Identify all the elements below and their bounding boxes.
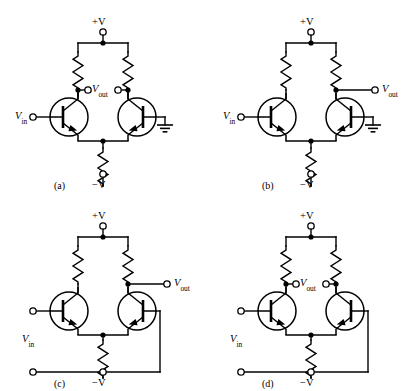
terminal-vout-c[interactable] (164, 281, 170, 287)
node-top-rail-c (100, 234, 105, 239)
transistor-right-a (118, 93, 156, 141)
node-top-rail-d (308, 234, 313, 239)
resistor-collector-right-c (123, 246, 133, 284)
node-top-rail-a (100, 40, 105, 45)
terminal-vout-b[interactable] (372, 87, 378, 93)
circuit-schematic-canvas (0, 0, 417, 391)
transistor-left-d (258, 287, 296, 335)
label-vout-c: Vout (174, 278, 190, 289)
transistor-left-b (258, 93, 296, 141)
terminal-vin-negative-c[interactable] (30, 369, 36, 375)
label-supply-positive-a: +V (92, 17, 106, 28)
circuit-b (238, 29, 381, 186)
resistor-collector-left-b (281, 52, 291, 90)
label-vin-a: Vin (15, 111, 27, 122)
label-supply-negative-a: −V (92, 180, 106, 191)
caption-a: (a) (54, 180, 65, 191)
resistor-collector-left-a (73, 52, 83, 90)
terminal-vin-positive-c[interactable] (30, 308, 36, 314)
terminal-vout-right-a[interactable] (115, 87, 121, 93)
label-supply-positive-d: +V (300, 211, 314, 222)
terminal-supply-negative-a[interactable] (100, 171, 106, 177)
terminal-supply-positive-d[interactable] (308, 223, 314, 229)
label-vin-d: Vin (230, 334, 242, 345)
label-vout-b: Vout (382, 84, 398, 95)
label-supply-positive-c: +V (92, 211, 106, 222)
terminal-vout-right-d[interactable] (323, 281, 329, 287)
resistor-collector-right-b (331, 52, 341, 90)
transistor-right-d (326, 287, 364, 335)
transistor-right-c (118, 287, 156, 335)
node-top-rail-b (308, 40, 313, 45)
label-vin-b: Vin (223, 111, 235, 122)
label-vout-d: Vout (300, 278, 316, 289)
circuit-c (30, 223, 170, 378)
terminal-vin-a[interactable] (30, 114, 36, 120)
terminal-vin-positive-d[interactable] (238, 308, 244, 314)
terminal-vout-left-d[interactable] (293, 281, 299, 287)
ground-symbol-b (365, 125, 381, 132)
label-vout-a: Vout (92, 84, 108, 95)
label-supply-negative-c: −V (92, 378, 106, 389)
terminal-supply-negative-b[interactable] (308, 171, 314, 177)
resistor-collector-right-d (331, 246, 341, 284)
label-supply-negative-d: −V (300, 378, 314, 389)
circuit-a (30, 29, 173, 186)
caption-b: (b) (262, 180, 274, 191)
resistor-collector-left-c (73, 246, 83, 284)
terminal-vin-negative-d[interactable] (238, 369, 244, 375)
terminal-supply-negative-c[interactable] (100, 369, 106, 375)
terminal-supply-positive-c[interactable] (100, 223, 106, 229)
label-vin-c: Vin (22, 334, 34, 345)
resistor-collector-left-d (281, 246, 291, 284)
terminal-supply-positive-a[interactable] (100, 29, 106, 35)
resistor-collector-right-a (123, 52, 133, 90)
transistor-right-b (326, 93, 364, 141)
figure-differential-amplifiers: +V Vin Vout −V (a) +V Vin Vout −V (b) +V… (0, 0, 417, 391)
ground-symbol-a (157, 125, 173, 132)
transistor-left-c (50, 287, 88, 335)
caption-c: (c) (54, 378, 65, 389)
terminal-vin-b[interactable] (238, 114, 244, 120)
caption-d: (d) (262, 378, 274, 389)
label-supply-negative-b: −V (300, 180, 314, 191)
terminal-supply-negative-d[interactable] (308, 369, 314, 375)
transistor-left-a (50, 93, 88, 141)
circuit-d (238, 223, 368, 378)
label-supply-positive-b: +V (300, 17, 314, 28)
terminal-vout-left-a[interactable] (85, 87, 91, 93)
terminal-supply-positive-b[interactable] (308, 29, 314, 35)
